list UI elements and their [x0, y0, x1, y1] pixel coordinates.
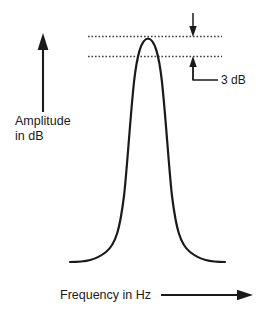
arrow-down-icon	[189, 13, 196, 37]
response-curve	[70, 39, 225, 263]
y-axis-label-line2: in dB	[15, 129, 71, 144]
arrow-up-icon	[38, 33, 49, 112]
leader-line-icon	[193, 62, 218, 80]
y-axis-label: Amplitude in dB	[15, 114, 71, 144]
bandwidth-annotation-label: 3 dB	[221, 73, 246, 88]
y-axis-label-line1: Amplitude	[15, 114, 71, 129]
arrow-right-icon	[161, 290, 253, 300]
diagram-canvas	[0, 0, 267, 316]
x-axis-label: Frequency in Hz	[60, 288, 151, 303]
bandwidth-diagram: Amplitude in dB Frequency in Hz 3 dB	[0, 0, 267, 316]
